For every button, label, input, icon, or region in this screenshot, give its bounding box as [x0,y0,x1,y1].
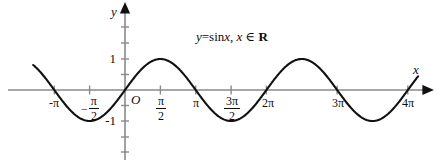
x-tick-label-3pi-over-2: 3π 2 [215,95,249,122]
equation-annotation: y=sinx, x ∈ R [196,30,268,43]
x-tick-label-pi: π [186,97,206,109]
plot-canvas [0,0,443,168]
y-axis-label: y [111,5,117,18]
origin-label: O [131,93,140,106]
element-of-icon: ∈ [242,29,258,44]
x-tick-label-neg-pi: -π [42,97,66,109]
x-axis-label: x [413,63,419,76]
y-tick-label-positive-one: 1 [100,52,116,65]
x-tick-label-3pi: 3π [326,97,350,109]
neg-pi-over-2-sign: − [81,103,88,115]
sine-function-graph-figure: y=sinx, x ∈ R x y O 1 -1 -π − π 2 π 2 π … [0,0,443,168]
pi-over-2-numerator: π [156,95,166,109]
equation-real-set: R [258,29,267,44]
equation-eq: =sin [202,29,225,44]
pi-over-2-denominator: 2 [156,109,166,122]
three-pi-over-2-denominator: 2 [224,109,240,122]
three-pi-over-2-numerator: 3π [224,95,240,109]
neg-pi-over-2-denominator: 2 [89,109,99,122]
neg-pi-over-2-numerator: π [89,95,99,109]
x-tick-label-neg-pi-over-2: − π 2 [72,95,108,122]
x-tick-label-4pi: 4π [396,97,420,109]
x-tick-label-pi-over-2: π 2 [146,95,176,122]
x-tick-label-2pi: 2π [256,97,280,109]
